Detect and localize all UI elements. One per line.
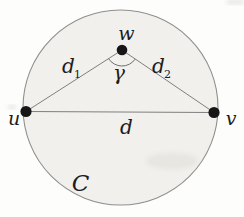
point-w-label: w xyxy=(118,22,134,44)
point-u-dot xyxy=(20,106,31,117)
scan-artifact-smudge xyxy=(146,153,198,169)
figure-canvas: w u v d 1 d 2 d γ C xyxy=(0,0,244,217)
geometry-figure: w u v d 1 d 2 d γ C xyxy=(0,0,244,217)
angle-gamma-label: γ xyxy=(113,61,125,85)
edge-d2-subscript: 2 xyxy=(164,68,171,81)
point-w-dot xyxy=(117,45,128,56)
circle-C-label: C xyxy=(72,170,90,196)
point-v-label: v xyxy=(226,107,237,129)
point-u-label: u xyxy=(8,107,20,129)
edge-d2-label: d xyxy=(152,54,165,78)
scan-artifact-corner xyxy=(227,0,244,4)
point-v-dot xyxy=(208,107,219,118)
edge-d1-label: d xyxy=(62,54,75,78)
edge-d-label: d xyxy=(120,115,133,139)
edge-d1-subscript: 1 xyxy=(74,68,81,81)
